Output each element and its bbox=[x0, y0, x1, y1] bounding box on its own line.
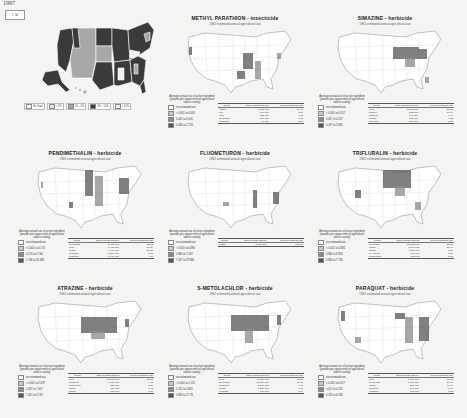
legend-row: no estimated use bbox=[168, 375, 216, 380]
legend-row: no estimated use bbox=[18, 375, 66, 380]
swatch-icon bbox=[318, 381, 324, 386]
crop-use-table: CropsTotal pounds appliedPercent nationa… bbox=[218, 238, 304, 247]
table-body: corn57,000,00088.05sorghum6,100,0009.42s… bbox=[68, 378, 154, 394]
map-title: PARAQUAT - herbicide bbox=[310, 285, 460, 291]
pesticide-map-panel-3: PENDIMETHALIN - herbicide 1992 estimated… bbox=[10, 140, 160, 275]
table-header-row: CropsTotal pounds appliedPercent nationa… bbox=[368, 239, 454, 243]
swatch-icon bbox=[318, 246, 324, 251]
swatch-icon bbox=[318, 252, 324, 257]
legend-item-1-5: 1% - 5% bbox=[66, 103, 87, 110]
swatch-icon bbox=[318, 111, 324, 116]
legend-row: no estimated use bbox=[318, 240, 366, 245]
swatch-icon bbox=[18, 375, 24, 380]
legend-row: < 0.001 to 1.152 bbox=[168, 381, 216, 386]
swatch-icon bbox=[318, 117, 324, 122]
legend-title: Average annual use of active ingredient … bbox=[168, 365, 216, 374]
table-body: soybeans13,802,00052.51cotton5,641,00021… bbox=[368, 243, 454, 259]
swatch-icon bbox=[168, 387, 174, 392]
swatch-icon bbox=[318, 387, 324, 392]
map-title: ATRAZINE - herbicide bbox=[10, 285, 160, 291]
map-title: FLUOMETURON - herbicide bbox=[160, 150, 310, 156]
us-county-use-map bbox=[185, 162, 295, 232]
legend-item-5-10: 5% - 10% bbox=[88, 103, 110, 110]
legend-row: 2.037 to 7.407 bbox=[18, 387, 66, 392]
crop-use-table: CropsTotal pounds appliedPercent nationa… bbox=[68, 238, 154, 259]
legend-row: 0.005 to 0.056 bbox=[168, 117, 216, 122]
map-subtitle: 1992 estimated annual agricultural use bbox=[160, 292, 310, 296]
us-county-use-map bbox=[185, 27, 295, 97]
overview-panel: 1997 𝑓 ☑ bbox=[0, 0, 160, 130]
legend-items: no estimated use< 0.001 to 0.0050.005 to… bbox=[168, 105, 216, 128]
map-subtitle: 1992 estimated annual agricultural use bbox=[10, 292, 160, 296]
map-subtitle: 1992 estimated annual agricultural use bbox=[10, 157, 160, 161]
swatch-icon bbox=[168, 246, 174, 251]
swatch-icon bbox=[18, 258, 24, 263]
legend-row: 0.056 to 2.718 bbox=[168, 123, 216, 128]
us-county-use-map bbox=[335, 297, 445, 367]
swatch-icon bbox=[18, 381, 24, 386]
map-title: PENDIMETHALIN - herbicide bbox=[10, 150, 160, 156]
swatch-icon bbox=[49, 104, 55, 109]
overview-legend: No Data < 1% 1% - 5% 5% - 10% > 10% bbox=[24, 103, 131, 110]
legend-items: no estimated use< 0.001 to 1.1521.152 to… bbox=[168, 375, 216, 398]
swatch-icon bbox=[18, 246, 24, 251]
swatch-icon bbox=[318, 240, 324, 245]
swatch-icon bbox=[168, 258, 174, 263]
map-title: METHYL PARATHION - insecticide bbox=[160, 15, 310, 21]
table-row: potatoes245,0005.22 bbox=[368, 390, 454, 393]
table-row: sunflowers612,0002.33 bbox=[368, 255, 454, 258]
legend-items: no estimated use< 0.001 to 0.8840.884 to… bbox=[318, 240, 366, 263]
use-legend: Average annual use of active ingredient … bbox=[318, 230, 366, 263]
us-county-use-map bbox=[335, 27, 445, 97]
legend-row: < 0.001 to 0.174 bbox=[18, 246, 66, 251]
legend-row: 0.017 to 0.135 bbox=[318, 387, 366, 392]
map-subtitle: 1992 estimated annual agricultural use bbox=[160, 22, 310, 26]
legend-row: 0.135 to 6.296 bbox=[318, 393, 366, 398]
swatch-icon bbox=[18, 252, 24, 257]
us-outline bbox=[188, 301, 291, 363]
crop-use-table: CropsTotal pounds appliedPercent nationa… bbox=[218, 373, 304, 394]
map-subtitle: 1992 estimated annual agricultural use bbox=[160, 157, 310, 161]
overview-us-map bbox=[0, 0, 160, 130]
us-county-use-map bbox=[35, 162, 145, 232]
legend-row: 1.152 to 5.859 bbox=[168, 387, 216, 392]
use-legend: Average annual use of active ingredient … bbox=[18, 230, 66, 263]
swatch-icon bbox=[18, 240, 24, 245]
swatch-icon bbox=[26, 104, 32, 109]
swatch-icon bbox=[168, 252, 174, 257]
crop-use-table: CropsTotal pounds appliedPercent nationa… bbox=[368, 373, 454, 394]
swatch-icon bbox=[168, 105, 174, 110]
crop-use-table: CropsTotal pounds appliedPercent nationa… bbox=[68, 373, 154, 394]
swatch-icon bbox=[168, 111, 174, 116]
legend-row: no estimated use bbox=[18, 240, 66, 245]
table-body: cotton1,706,00069.90rice197,0008.07corn1… bbox=[218, 108, 304, 124]
us-county-use-map bbox=[35, 297, 145, 367]
legend-items: no estimated use< 0.001 to 0.8800.880 to… bbox=[168, 240, 216, 263]
crop-use-table: CropsTotal pounds appliedPercent nationa… bbox=[218, 103, 304, 124]
table-header-row: CropsTotal pounds appliedPercent nationa… bbox=[68, 374, 154, 378]
pesticide-map-panel-4: FLUOMETURON - herbicide 1992 estimated a… bbox=[160, 140, 310, 275]
legend-row: 2.746 to 32.488 bbox=[18, 258, 66, 263]
legend-item-lt1: < 1% bbox=[47, 103, 64, 110]
use-legend: Average annual use of active ingredient … bbox=[168, 365, 216, 398]
legend-title: Average annual use of active ingredient … bbox=[168, 95, 216, 104]
map-subtitle: 1992 estimated annual agricultural use bbox=[310, 22, 460, 26]
table-row: almonds121,0002.60 bbox=[368, 120, 454, 123]
legend-items: no estimated use< 0.001 to 0.0170.017 to… bbox=[318, 375, 366, 398]
pesticide-map-panel-5: TRIFLURALIN - herbicide 1992 estimated a… bbox=[310, 140, 460, 275]
crop-use-table: CropsTotal pounds appliedPercent nationa… bbox=[368, 238, 454, 259]
swatch-icon bbox=[90, 104, 96, 109]
table-body: corn46,000,00072.21soybeans12,200,00019.… bbox=[218, 378, 304, 394]
pesticide-map-panel-6: ATRAZINE - herbicide 1992 estimated annu… bbox=[10, 275, 160, 410]
table-row: cotton5,392,000100.00 bbox=[218, 243, 304, 247]
swatch-icon bbox=[318, 393, 324, 398]
legend-row: 7.407 to 17.95 bbox=[18, 393, 66, 398]
us-outline bbox=[188, 31, 291, 93]
legend-row: 0.174 to 2.746 bbox=[18, 252, 66, 257]
use-legend: Average annual use of active ingredient … bbox=[318, 365, 366, 398]
legend-title: Average annual use of active ingredient … bbox=[318, 365, 366, 374]
map-title: SIMAZINE - herbicide bbox=[310, 15, 460, 21]
legend-row: < 0.001 to 0.880 bbox=[168, 246, 216, 251]
swatch-icon bbox=[318, 105, 324, 110]
crop-use-table: CropsTotal pounds appliedPercent nationa… bbox=[368, 103, 454, 124]
